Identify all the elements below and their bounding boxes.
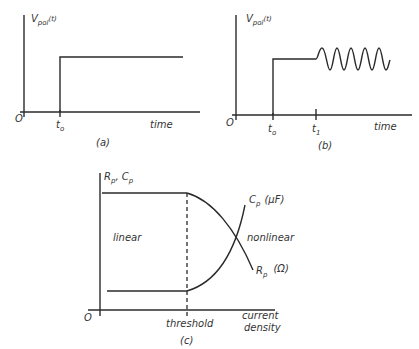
panel-c-cp-curve: [187, 205, 245, 291]
panel-b-step-curve: [273, 59, 316, 115]
panel-c-rp-cp-vs-current: Rp, Cp linear nonlinear Cp(μF) Rp(Ω) O t…: [84, 171, 295, 346]
panel-b-sine-curve: [316, 48, 390, 70]
panel-c-x-label-line1: current: [242, 310, 280, 321]
panel-a-step-voltage: Vpol(t) O to time (a): [15, 13, 200, 148]
panel-a-step-curve: [60, 57, 183, 112]
panel-a-caption: (a): [96, 137, 110, 148]
panel-b-t1-label: t1: [312, 123, 320, 137]
panel-c-origin: O: [84, 312, 92, 323]
panel-c-linear-label: linear: [113, 232, 142, 243]
panel-b-origin: O: [226, 117, 234, 128]
panel-b-caption: (b): [318, 140, 332, 151]
panel-a-x-label: time: [150, 119, 173, 130]
panel-c-rp-curve: [187, 193, 253, 270]
panel-c-rp-label: Rp(Ω): [256, 263, 289, 279]
panel-c-cp-label: Cp(μF): [249, 194, 284, 208]
panel-c-caption: (c): [180, 335, 193, 346]
panel-b-x-label: time: [374, 121, 397, 132]
panel-a-y-label: Vpol(t): [31, 13, 57, 27]
panel-c-threshold-label: threshold: [166, 318, 214, 329]
panel-a-t0-label: to: [56, 119, 64, 133]
panel-b-step-with-ac: Vpol(t) O to t1 time (b): [226, 13, 412, 151]
panel-c-y-label: Rp, Cp: [104, 171, 134, 185]
panel-a-origin: O: [15, 113, 23, 124]
panel-c-x-label-line2: density: [244, 322, 282, 333]
panel-b-y-label: Vpol(t): [246, 13, 272, 27]
panel-c-nonlinear-label: nonlinear: [247, 232, 295, 243]
polarization-diagram: Vpol(t) O to time (a) Vpol(t) O to t1 ti…: [0, 0, 419, 349]
panel-b-t0-label: to: [268, 123, 276, 137]
